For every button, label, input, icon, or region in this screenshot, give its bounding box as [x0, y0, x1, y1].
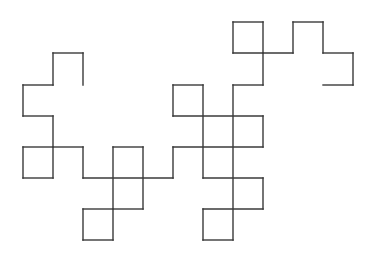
dragon-curve-diagram [0, 0, 374, 258]
